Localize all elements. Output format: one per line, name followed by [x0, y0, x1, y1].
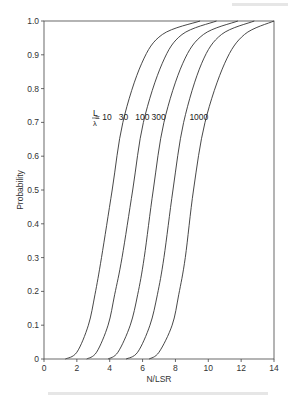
y-tick-label: 0.2 [27, 286, 39, 296]
x-tick-label: 2 [74, 363, 79, 373]
x-tick-label: 0 [42, 363, 47, 373]
curve-300 [126, 21, 254, 359]
curve-label-100: 100 [135, 112, 149, 122]
curves [65, 21, 274, 359]
curve-label-1000: 1000 [189, 112, 208, 122]
cropped-header-text [232, 3, 288, 6]
y-axis-label: Probability [15, 169, 25, 209]
y-tick-label: 1.0 [27, 16, 39, 26]
y-tick-label: 0.6 [27, 151, 39, 161]
curve-label-300: 300 [152, 112, 166, 122]
curve-1000 [149, 21, 274, 359]
x-tick-label: 12 [236, 363, 246, 373]
curve-30 [87, 21, 217, 359]
y-tick-label: 0.5 [27, 185, 39, 195]
y-tick-label: 0.1 [27, 320, 39, 330]
curve-label-30: 30 [119, 112, 129, 122]
x-tick-label: 8 [173, 363, 178, 373]
x-axis-label: N/LSR [146, 374, 171, 384]
x-tick-label: 4 [107, 363, 112, 373]
y-tick-label: 0.3 [27, 253, 39, 263]
probability-chart: 00.10.20.30.40.50.60.70.80.91.0024681012… [0, 0, 294, 397]
y-tick-label: 0.4 [27, 219, 39, 229]
y-tick-label: 0.7 [27, 117, 39, 127]
plot-axes: 00.10.20.30.40.50.60.70.80.91.0024681012… [27, 16, 279, 373]
curve-labels: L λ = 10301003001000 [92, 108, 209, 128]
y-tick-label: 0.9 [27, 50, 39, 60]
y-tick-label: 0 [34, 354, 39, 364]
cropped-caption-text [48, 392, 268, 395]
x-tick-label: 14 [269, 363, 279, 373]
x-tick-label: 10 [204, 363, 214, 373]
x-tick-label: 6 [140, 363, 145, 373]
curve-label-10: = 10 [95, 112, 112, 122]
y-tick-label: 0.8 [27, 84, 39, 94]
